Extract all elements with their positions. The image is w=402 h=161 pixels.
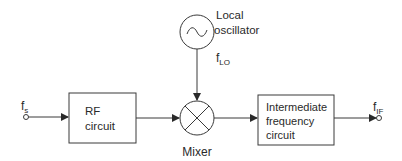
- if-block-label-line2: frequency: [266, 115, 315, 127]
- mixer: Mixer: [180, 101, 214, 159]
- intermediate-frequency-block: Intermediate frequency circuit: [258, 95, 334, 145]
- output-terminal: fIF: [373, 100, 384, 121]
- mixer-label: Mixer: [182, 145, 211, 159]
- rf-circuit-label-line1: RF: [85, 105, 100, 117]
- local-oscillator: Local oscillator fLO: [180, 9, 260, 67]
- output-frequency-label: fIF: [373, 100, 384, 116]
- if-block-label-line3: circuit: [266, 129, 295, 141]
- local-oscillator-label-line2: oscillator: [214, 24, 260, 36]
- rf-circuit-label-line2: circuit: [85, 120, 116, 132]
- lo-frequency-label: fLO: [216, 51, 230, 67]
- input-frequency-label: fs: [21, 99, 28, 115]
- rf-circuit-block: RF circuit: [69, 93, 136, 143]
- if-block-label-line1: Intermediate: [266, 101, 327, 113]
- output-terminal-icon: [377, 116, 382, 121]
- input-terminal: fs: [21, 99, 29, 120]
- receiver-block-diagram: fs RF circuit Local oscillator fLO Mixer…: [0, 0, 402, 161]
- local-oscillator-label-line1: Local: [216, 9, 244, 21]
- input-terminal-icon: [24, 115, 29, 120]
